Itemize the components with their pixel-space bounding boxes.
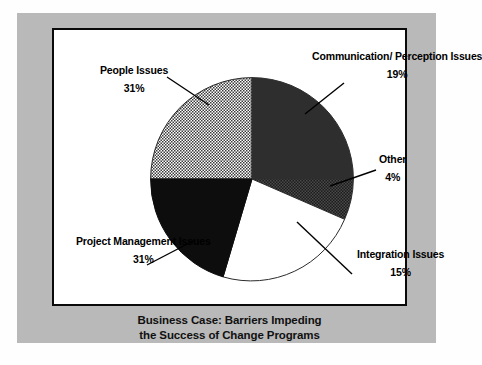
slice-label-text-line1: Project: [76, 235, 111, 247]
slice-value-text: 31%: [76, 253, 211, 267]
caption-line-1: Business Case: Barriers Impeding: [52, 313, 407, 328]
chart-panel: People Issues 31% Communication/ Percept…: [52, 28, 407, 306]
slice-label-project-management-issues: Project Management Issues 31%: [76, 235, 211, 266]
slice-label-other: Other 4%: [379, 153, 406, 184]
slice-label-text: Other: [379, 153, 406, 165]
slice-label-text: People Issues: [100, 64, 168, 76]
slice-label-text-line2: Management: [113, 235, 176, 247]
slice-value-text: 19%: [312, 68, 482, 82]
pie-chart: People Issues 31% Communication/ Percept…: [54, 30, 405, 304]
slice-label-integration-issues: Integration Issues 15%: [357, 248, 444, 279]
slice-label-text-line1: Integration: [357, 248, 410, 260]
slice-label-text-line2: Issues: [412, 248, 444, 260]
slice-label-text-line1: Communication/: [312, 50, 392, 62]
slice-value-text: 15%: [357, 266, 444, 280]
slice-label-text-line3: Issues: [179, 235, 211, 247]
figure-frame: People Issues 31% Communication/ Percept…: [17, 13, 436, 343]
slice-label-people-issues: People Issues 31%: [100, 64, 168, 95]
chart-caption: Business Case: Barriers Impeding the Suc…: [52, 313, 407, 343]
caption-line-2: the Success of Change Programs: [52, 328, 407, 343]
slice-value-text: 4%: [379, 171, 406, 185]
slice-label-communication-perception-issues: Communication/ Perception Issues 19%: [312, 50, 482, 81]
slice-value-text: 31%: [100, 82, 168, 96]
slice-label-text-line2: Perception Issues: [395, 50, 482, 62]
pie-slice-communication-perception-issues: [252, 78, 353, 179]
